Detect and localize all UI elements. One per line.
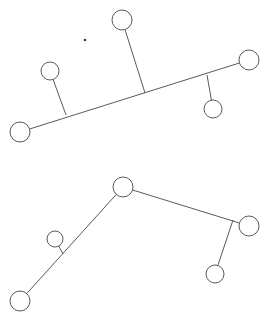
upper-left-branch-node[interactable] — [41, 62, 59, 80]
right-endpoint-node[interactable] — [239, 216, 259, 236]
main-diagonal-spine-edge — [30, 63, 240, 129]
graph-top-skeleton — [10, 10, 259, 142]
right-branch-edge — [218, 220, 233, 265]
graph-bottom-skeleton — [10, 177, 259, 311]
right-endpoint-node[interactable] — [239, 50, 259, 70]
mid-branch-edge — [125, 30, 145, 93]
stray-marks-layer — [84, 39, 87, 42]
bottom-left-endpoint-node[interactable] — [10, 291, 30, 311]
apex-node[interactable] — [113, 177, 133, 197]
bottom-left-endpoint-node[interactable] — [10, 122, 30, 142]
diagram-canvas — [0, 0, 272, 322]
top-branch-node[interactable] — [112, 10, 132, 30]
lower-right-branch-node[interactable] — [204, 100, 222, 118]
left-branch-edge — [59, 246, 63, 254]
graph-bottom-nodes — [10, 177, 259, 311]
lower-right-branch-node[interactable] — [206, 265, 224, 283]
diagram-svg-layer — [0, 0, 272, 322]
left-branch-edge — [53, 79, 66, 115]
right-branch-edge — [207, 75, 211, 100]
left-arm-edge — [27, 194, 117, 293]
graph-top-nodes — [10, 10, 259, 142]
right-arm-edge — [133, 190, 240, 223]
left-branch-node[interactable] — [47, 231, 63, 247]
stray-dot-mark — [84, 39, 87, 42]
